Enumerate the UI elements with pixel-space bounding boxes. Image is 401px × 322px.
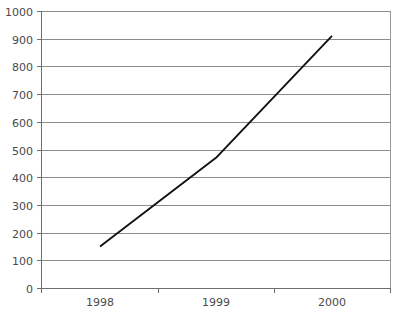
y-tick-label: 400 <box>12 172 33 185</box>
y-tick-label: 300 <box>12 200 33 213</box>
y-tick-label: 800 <box>12 61 33 74</box>
y-tick-label: 600 <box>12 117 33 130</box>
line-chart: 01002003004005006007008009001000 1998199… <box>0 0 401 322</box>
x-tick-label: 1998 <box>86 296 114 309</box>
x-tick-label: 1999 <box>202 296 230 309</box>
y-tick-label: 0 <box>26 283 33 296</box>
y-tick-label: 100 <box>12 255 33 268</box>
y-tick-label: 900 <box>12 34 33 47</box>
y-tick-label: 500 <box>12 145 33 158</box>
chart-background <box>0 0 401 322</box>
y-tick-label: 200 <box>12 228 33 241</box>
x-tick-label: 2000 <box>318 296 346 309</box>
y-tick-label: 1000 <box>5 6 33 19</box>
y-tick-label: 700 <box>12 89 33 102</box>
chart-canvas: 01002003004005006007008009001000 1998199… <box>0 0 401 322</box>
